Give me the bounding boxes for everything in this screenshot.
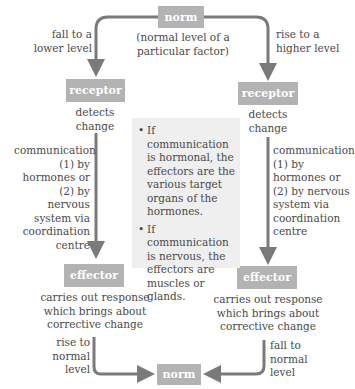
top-norm-caption: (normal level of a particular factor) xyxy=(128,31,238,58)
right-receptor-caption: detects change xyxy=(243,108,293,135)
left-communication-text: communication (1) by hormones or (2) by … xyxy=(14,144,90,252)
left-branch-label: fall to a lower level xyxy=(30,28,92,55)
left-effector-box: effector xyxy=(64,264,124,287)
info-item-nervous: If communication is nervous, the effecto… xyxy=(138,223,236,304)
info-item-hormonal: If communication is hormonal, the effect… xyxy=(138,124,236,219)
left-receptor-box: receptor xyxy=(66,79,125,102)
right-receptor-box: receptor xyxy=(238,82,298,105)
right-branch-label: rise to a higher level xyxy=(276,28,346,55)
arrow-rise-to-normal xyxy=(94,337,146,374)
left-return-label: rise to normal level xyxy=(40,336,90,377)
arrow-fall-to-normal xyxy=(212,340,264,374)
left-receptor-caption: detects change xyxy=(70,106,120,133)
info-box: If communication is hormonal, the effect… xyxy=(132,118,240,268)
bottom-norm-box: norm xyxy=(157,364,201,385)
top-norm-box: norm xyxy=(158,6,204,28)
left-effector-caption: carries out response which brings about … xyxy=(40,291,150,332)
right-effector-box: effector xyxy=(237,266,297,289)
right-communication-text: communication (1) by hormones or (2) by … xyxy=(273,144,351,239)
right-return-label: fall to normal level xyxy=(270,339,320,380)
